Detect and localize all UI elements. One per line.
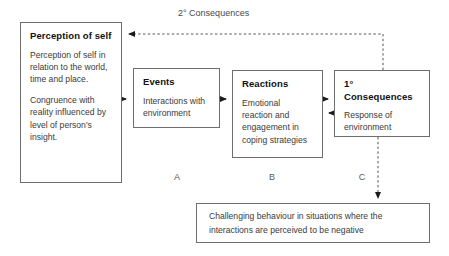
caption-c: C bbox=[352, 172, 372, 182]
box-consequences-title-prefix: 1° bbox=[344, 78, 420, 91]
dashed-feedback-to-perception bbox=[129, 34, 383, 70]
box-consequences-body: Response of environment bbox=[344, 109, 420, 134]
box-reactions-title: Reactions bbox=[242, 78, 313, 91]
box-events-title: Events bbox=[143, 76, 210, 89]
box-events: Events Interactions with environment bbox=[133, 68, 220, 128]
box-perception-paragraph-1: Perception of self in relation to the wo… bbox=[30, 49, 112, 86]
box-challenging-behaviour: Challenging behaviour in situations wher… bbox=[196, 203, 430, 243]
secondary-consequences-label: 2° Consequences bbox=[178, 8, 249, 18]
box-reactions-body: Emotional reaction and engagement in cop… bbox=[242, 97, 313, 147]
caption-b: B bbox=[262, 172, 282, 182]
box-perception-title: Perception of self bbox=[30, 30, 112, 43]
box-reactions: Reactions Emotional reaction and engagem… bbox=[232, 70, 323, 158]
caption-a: A bbox=[167, 172, 187, 182]
box-primary-consequences: 1° Consequences Response of environment bbox=[334, 70, 430, 137]
box-events-body: Interactions with environment bbox=[143, 95, 210, 120]
diagram-canvas: 2° Consequences Perception of self Perce… bbox=[0, 0, 449, 256]
box-challenging-body: Challenging behaviour in situations wher… bbox=[209, 209, 417, 237]
box-perception-of-self: Perception of self Perception of self in… bbox=[20, 22, 122, 183]
box-perception-paragraph-2: Congruence with reality influenced by le… bbox=[30, 94, 112, 144]
box-consequences-title: Consequences bbox=[344, 91, 420, 104]
